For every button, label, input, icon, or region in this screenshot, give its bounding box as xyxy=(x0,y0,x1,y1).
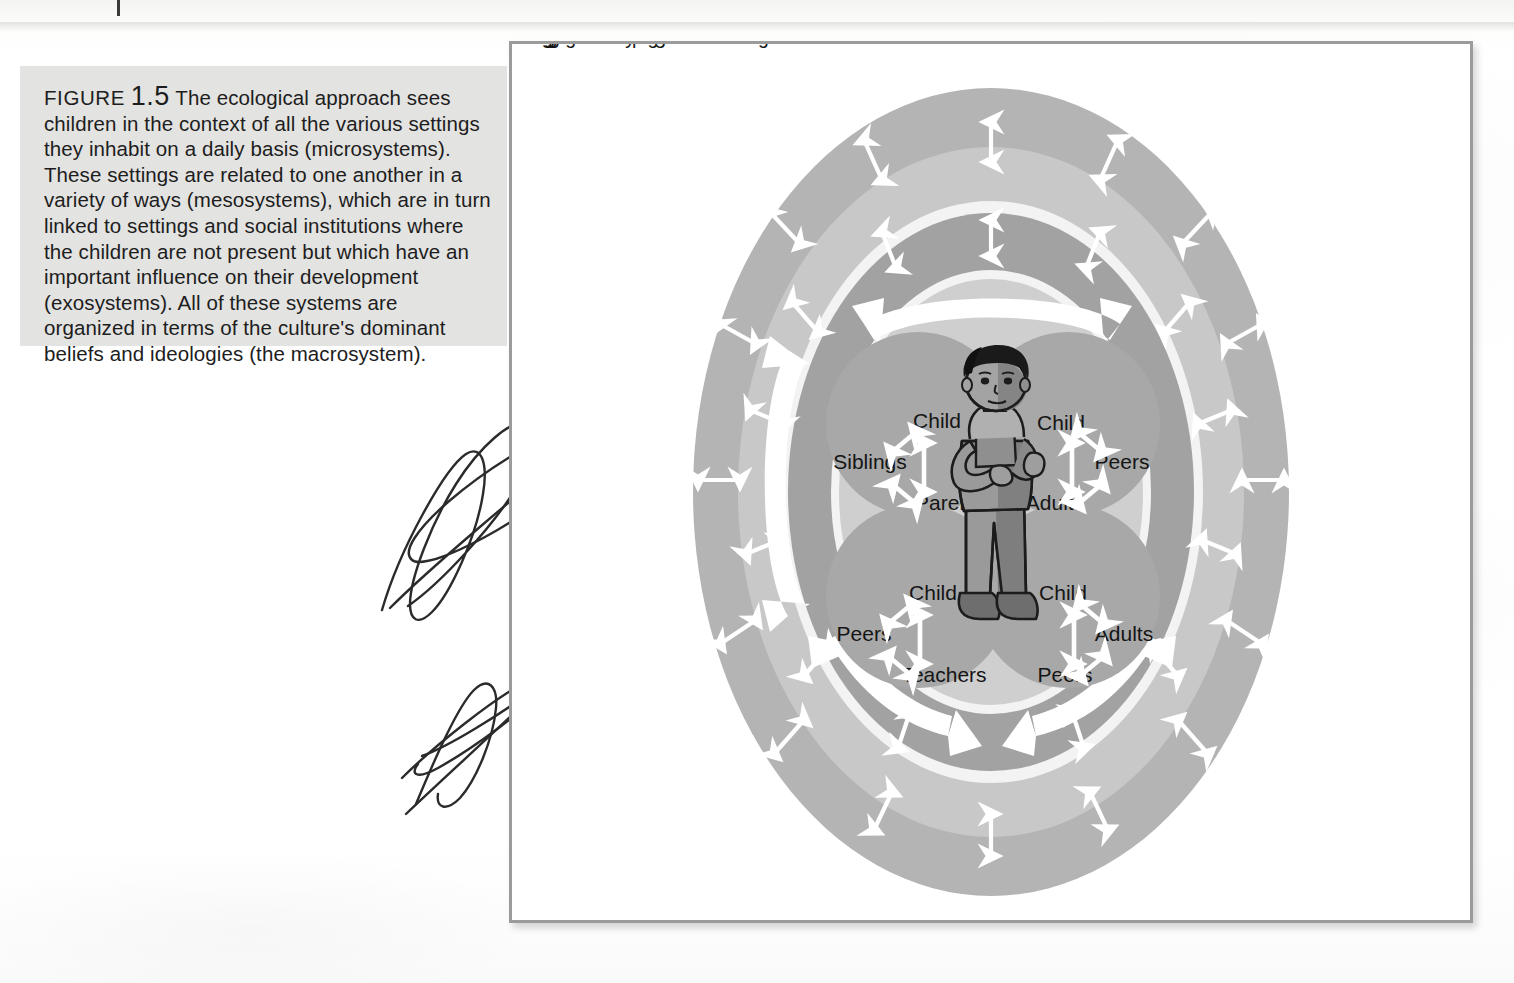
page-edge-mark xyxy=(117,0,120,16)
micro-title-neighborhood: Neighborhood xyxy=(512,44,644,48)
micro-node-neighborhood-adults: Adults xyxy=(1095,622,1153,645)
figure-frame: MACROSYSTEM EXOSYSTEMS MESOSYSTEMS MICRO… xyxy=(509,41,1473,923)
micro-node-school-peers: Peers xyxy=(837,622,892,645)
figure-caption-box: FIGURE 1.5 The ecological approach sees … xyxy=(20,66,507,346)
micro-node-home-child: Child xyxy=(913,409,961,432)
micro-node-religious-adults: Adults xyxy=(1026,491,1084,514)
micro-node-neighborhood-child: Child xyxy=(1039,581,1087,604)
micro-node-school-child: Child xyxy=(909,581,957,604)
micro-node-religious-child: Child xyxy=(1037,411,1085,434)
figure-caption-text: FIGURE 1.5 The ecological approach sees … xyxy=(44,84,492,367)
figure-number: 1.5 xyxy=(131,81,170,111)
page-top-shadow xyxy=(0,22,1514,32)
figure-caption-body: The ecological approach sees children in… xyxy=(44,86,491,365)
figure-label: FIGURE xyxy=(44,86,125,109)
ecological-systems-diagram: MACROSYSTEM EXOSYSTEMS MESOSYSTEMS MICRO… xyxy=(512,44,1470,920)
micro-node-religious-peers: Peers xyxy=(1095,450,1150,473)
micro-node-home-siblings: Siblings xyxy=(833,450,907,473)
micro-node-school-teachers: Teachers xyxy=(901,663,986,686)
